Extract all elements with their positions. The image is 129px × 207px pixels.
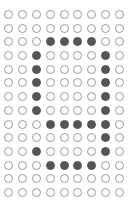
empty-dot[interactable] [32, 188, 41, 197]
empty-dot[interactable] [73, 24, 82, 33]
empty-dot[interactable] [87, 78, 96, 87]
empty-dot[interactable] [73, 65, 82, 74]
empty-dot[interactable] [60, 92, 69, 101]
empty-dot[interactable] [32, 161, 41, 170]
filled-dot[interactable] [101, 51, 110, 60]
empty-dot[interactable] [101, 161, 110, 170]
empty-dot[interactable] [46, 10, 55, 19]
empty-dot[interactable] [87, 92, 96, 101]
empty-dot[interactable] [87, 10, 96, 19]
filled-dot[interactable] [101, 106, 110, 115]
empty-dot[interactable] [46, 106, 55, 115]
empty-dot[interactable] [4, 133, 13, 142]
empty-dot[interactable] [46, 24, 55, 33]
empty-dot[interactable] [18, 51, 27, 60]
empty-dot[interactable] [32, 133, 41, 142]
empty-dot[interactable] [4, 188, 13, 197]
filled-dot[interactable] [60, 120, 69, 129]
empty-dot[interactable] [4, 92, 13, 101]
filled-dot[interactable] [87, 120, 96, 129]
empty-dot[interactable] [73, 51, 82, 60]
filled-dot[interactable] [32, 147, 41, 156]
empty-dot[interactable] [60, 174, 69, 183]
filled-dot[interactable] [101, 78, 110, 87]
empty-dot[interactable] [4, 106, 13, 115]
filled-dot[interactable] [87, 161, 96, 170]
empty-dot[interactable] [4, 120, 13, 129]
empty-dot[interactable] [46, 65, 55, 74]
empty-dot[interactable] [73, 10, 82, 19]
empty-dot[interactable] [73, 174, 82, 183]
empty-dot[interactable] [4, 161, 13, 170]
empty-dot[interactable] [18, 65, 27, 74]
empty-dot[interactable] [18, 24, 27, 33]
empty-dot[interactable] [73, 147, 82, 156]
filled-dot[interactable] [46, 161, 55, 170]
empty-dot[interactable] [60, 147, 69, 156]
empty-dot[interactable] [73, 106, 82, 115]
empty-dot[interactable] [60, 10, 69, 19]
empty-dot[interactable] [32, 10, 41, 19]
empty-dot[interactable] [115, 51, 124, 60]
empty-dot[interactable] [60, 51, 69, 60]
empty-dot[interactable] [32, 24, 41, 33]
empty-dot[interactable] [115, 161, 124, 170]
empty-dot[interactable] [115, 133, 124, 142]
empty-dot[interactable] [18, 188, 27, 197]
filled-dot[interactable] [32, 106, 41, 115]
empty-dot[interactable] [46, 78, 55, 87]
empty-dot[interactable] [73, 188, 82, 197]
empty-dot[interactable] [115, 10, 124, 19]
filled-dot[interactable] [46, 37, 55, 46]
empty-dot[interactable] [101, 37, 110, 46]
filled-dot[interactable] [101, 147, 110, 156]
empty-dot[interactable] [87, 188, 96, 197]
empty-dot[interactable] [87, 147, 96, 156]
empty-dot[interactable] [87, 106, 96, 115]
filled-dot[interactable] [101, 92, 110, 101]
empty-dot[interactable] [18, 120, 27, 129]
filled-dot[interactable] [101, 120, 110, 129]
filled-dot[interactable] [32, 78, 41, 87]
empty-dot[interactable] [73, 78, 82, 87]
empty-dot[interactable] [60, 188, 69, 197]
empty-dot[interactable] [115, 174, 124, 183]
empty-dot[interactable] [46, 188, 55, 197]
empty-dot[interactable] [101, 10, 110, 19]
filled-dot[interactable] [60, 161, 69, 170]
empty-dot[interactable] [115, 106, 124, 115]
filled-dot[interactable] [32, 51, 41, 60]
empty-dot[interactable] [32, 120, 41, 129]
empty-dot[interactable] [101, 174, 110, 183]
empty-dot[interactable] [18, 106, 27, 115]
empty-dot[interactable] [4, 65, 13, 74]
empty-dot[interactable] [115, 120, 124, 129]
empty-dot[interactable] [60, 78, 69, 87]
filled-dot[interactable] [87, 37, 96, 46]
empty-dot[interactable] [4, 51, 13, 60]
empty-dot[interactable] [115, 92, 124, 101]
empty-dot[interactable] [32, 37, 41, 46]
filled-dot[interactable] [73, 37, 82, 46]
empty-dot[interactable] [46, 174, 55, 183]
empty-dot[interactable] [115, 37, 124, 46]
empty-dot[interactable] [32, 174, 41, 183]
empty-dot[interactable] [60, 133, 69, 142]
empty-dot[interactable] [18, 10, 27, 19]
empty-dot[interactable] [18, 78, 27, 87]
empty-dot[interactable] [18, 147, 27, 156]
filled-dot[interactable] [32, 92, 41, 101]
filled-dot[interactable] [60, 37, 69, 46]
empty-dot[interactable] [18, 37, 27, 46]
empty-dot[interactable] [87, 133, 96, 142]
empty-dot[interactable] [101, 24, 110, 33]
filled-dot[interactable] [73, 161, 82, 170]
empty-dot[interactable] [4, 174, 13, 183]
empty-dot[interactable] [87, 51, 96, 60]
empty-dot[interactable] [60, 65, 69, 74]
empty-dot[interactable] [115, 65, 124, 74]
empty-dot[interactable] [18, 161, 27, 170]
empty-dot[interactable] [115, 188, 124, 197]
empty-dot[interactable] [87, 24, 96, 33]
empty-dot[interactable] [46, 51, 55, 60]
